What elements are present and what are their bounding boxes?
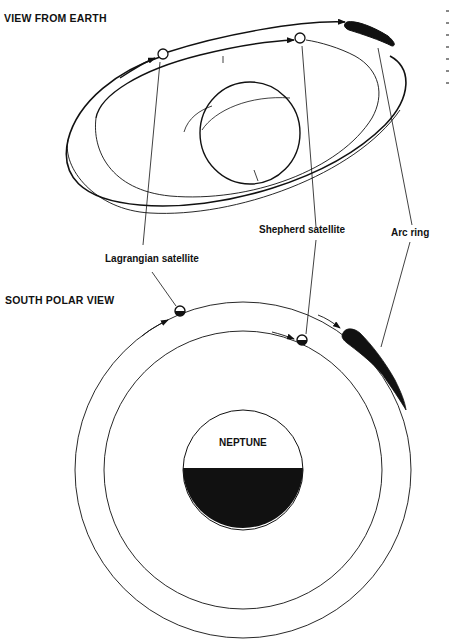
shepherd-satellite-top (295, 33, 305, 43)
arc-ring-label: Arc ring (391, 227, 429, 238)
lagrangian-leader-bottom (152, 272, 176, 306)
neptune-night-side (183, 468, 303, 528)
sphere-tick-bottom (254, 170, 258, 181)
lagrangian-satellite-top (158, 49, 168, 59)
cropped-edge-text (446, 10, 450, 94)
sphere-equator-lower (184, 106, 212, 132)
shepherd-leader-bottom (306, 240, 316, 334)
sphere-equator (202, 98, 290, 130)
outer-ring-arrow-left (120, 58, 155, 78)
outer-ring-orbit-top (66, 56, 406, 206)
outer-ring-orbit-top-upper (168, 22, 345, 52)
arc-ring-top (345, 22, 395, 46)
inner-ring-orbit-top-upper (96, 40, 294, 118)
arc-leader-bottom (381, 242, 410, 347)
earth-view-heading: VIEW FROM EARTH (4, 12, 107, 24)
inner-ring-orbit-top (95, 40, 378, 197)
diagram-canvas (0, 0, 450, 641)
shepherd-satellite-label: Shepherd satellite (259, 224, 345, 235)
inner-orbit-arrow (272, 332, 294, 339)
lagrangian-leader-top (143, 62, 160, 245)
arc-leader-top (378, 48, 412, 225)
south-polar-view-heading: SOUTH POLAR VIEW (5, 294, 114, 306)
neptune-sphere-earth-view (200, 82, 300, 184)
earth-view (66, 22, 406, 214)
lagrangian-satellite-polar (175, 306, 185, 316)
south-polar-view (75, 302, 411, 638)
outer-orbit-arrow-left (142, 320, 168, 336)
shepherd-satellite-polar (297, 335, 307, 345)
neptune-label: NEPTUNE (219, 437, 267, 448)
arc-ring-polar (342, 329, 406, 410)
shepherd-leader-top (302, 46, 316, 227)
lagrangian-satellite-label: Lagrangian satellite (105, 253, 199, 264)
